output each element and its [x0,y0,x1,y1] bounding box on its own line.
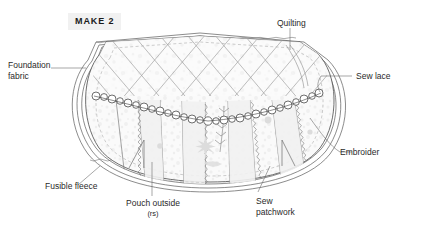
callout-sew-patchwork: Sew patchwork [256,196,295,217]
callout-fusible-fleece-line1: Fusible fleece [45,181,97,192]
callout-embroider: Embroider [340,147,379,158]
callout-quilting-line1: Quilting [277,18,306,29]
callout-fusible-fleece: Fusible fleece [45,181,97,192]
callout-foundation-fabric-line2: fabric [8,71,51,82]
callout-sew-patchwork-line2: patchwork [256,207,295,218]
callout-pouch-outside-line1: Pouch outside [109,198,197,209]
callout-foundation-fabric: Foundation fabric [8,60,51,81]
diagram-page: MAKE 2 Foundation fabric Quilting Sew la… [0,0,421,237]
callout-sew-patchwork-line1: Sew [256,196,295,207]
callout-pouch-outside: Pouch outside (rs) [109,198,197,219]
callout-foundation-fabric-line1: Foundation [8,60,51,71]
make-badge: MAKE 2 [68,13,121,30]
pouch-diagram [0,0,421,237]
callout-embroider-line1: Embroider [340,147,379,158]
callout-sew-lace-line1: Sew lace [356,71,391,82]
callout-quilting: Quilting [277,18,306,29]
callout-pouch-outside-line2: (rs) [109,209,197,220]
callout-sew-lace: Sew lace [356,71,391,82]
